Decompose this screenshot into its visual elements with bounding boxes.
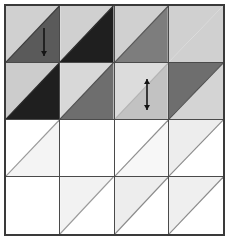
stimulus-figure xyxy=(0,0,229,240)
cell-r1c3 xyxy=(169,63,223,120)
grid-cells xyxy=(6,6,223,234)
cell-r1c1 xyxy=(60,63,114,120)
cell-r2c1 xyxy=(60,120,114,177)
cell-r2c2 xyxy=(115,120,169,177)
cell-r0c3 xyxy=(169,6,223,63)
cell-r3c1 xyxy=(60,177,114,234)
cell-r2c0 xyxy=(6,120,60,177)
cell-r0c1 xyxy=(60,6,114,63)
cell-r3c2 xyxy=(115,177,169,234)
cell-r0c0 xyxy=(6,6,60,63)
cell-r1c0 xyxy=(6,63,60,120)
cell-r1c2 xyxy=(115,63,169,120)
cell-r2c3 xyxy=(169,120,223,177)
grid-frame xyxy=(4,4,225,236)
cell-r3c3 xyxy=(169,177,223,234)
cell-r3c0 xyxy=(6,177,60,234)
cell-r0c2 xyxy=(115,6,169,63)
